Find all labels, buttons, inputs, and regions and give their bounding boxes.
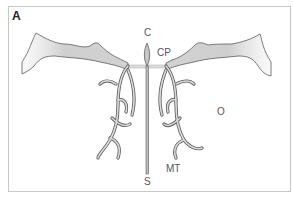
label-crista-galli: C	[144, 28, 151, 38]
right-orbital-roof	[166, 34, 271, 76]
left-orbital-roof	[22, 33, 128, 74]
left-ethmoid-turbinates	[98, 66, 134, 158]
crista-galli	[144, 43, 149, 66]
label-septum: S	[144, 177, 151, 187]
panel-label: A	[12, 9, 21, 23]
nasal-septum	[146, 66, 149, 174]
right-ethmoid-inner	[160, 66, 202, 158]
label-cribriform-plate: CP	[157, 48, 171, 58]
label-middle-turbinate: MT	[166, 164, 180, 174]
label-orbit: O	[217, 107, 225, 117]
right-ethmoid-turbinates	[160, 66, 202, 158]
